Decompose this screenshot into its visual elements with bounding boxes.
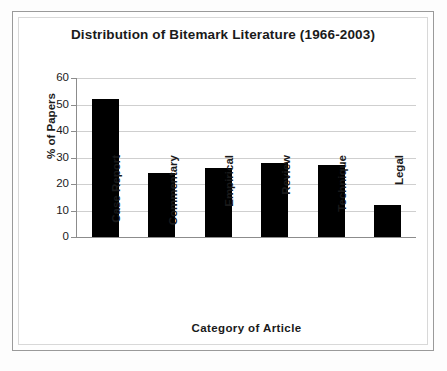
gridline <box>77 184 416 185</box>
y-axis-tick-label: 60 <box>29 72 69 84</box>
gridline <box>77 78 416 79</box>
y-axis-tick-label: 50 <box>29 99 69 111</box>
x-axis-category-label: Case Report <box>110 155 122 245</box>
x-axis-category-label: Review <box>280 155 292 245</box>
chart-title: Distribution of Bitemark Literature (196… <box>18 27 428 42</box>
y-axis-tick-mark <box>71 184 76 185</box>
gridline <box>77 131 416 132</box>
y-axis-tick-label: 0 <box>29 231 69 243</box>
y-axis-tick-mark <box>71 131 76 132</box>
y-axis-tick-mark <box>71 78 76 79</box>
y-axis-tick-label: 20 <box>29 178 69 190</box>
gridline <box>77 211 416 212</box>
x-axis-category-label: Empirical <box>223 155 235 245</box>
y-axis-tick-mark <box>71 237 76 238</box>
gridline <box>77 158 416 159</box>
y-axis-tick-label: 10 <box>29 205 69 217</box>
y-axis-tick-label: 30 <box>29 152 69 164</box>
y-axis-tick-labels: 0102030405060 <box>25 0 69 371</box>
chart-figure: Distribution of Bitemark Literature (196… <box>0 0 447 371</box>
x-axis-title: Category of Article <box>77 322 416 334</box>
y-axis-tick-mark <box>71 105 76 106</box>
y-axis-tick-mark <box>71 211 76 212</box>
y-axis-line <box>76 78 77 238</box>
plot-area <box>77 78 416 237</box>
x-axis-category-label: Technique <box>336 155 348 245</box>
y-axis-tick-mark <box>71 158 76 159</box>
gridline <box>77 105 416 106</box>
x-axis-line <box>76 237 416 238</box>
x-axis-category-label: Commentary <box>167 155 179 245</box>
x-axis-category-label: Legal <box>393 155 405 245</box>
y-axis-tick-label: 40 <box>29 125 69 137</box>
